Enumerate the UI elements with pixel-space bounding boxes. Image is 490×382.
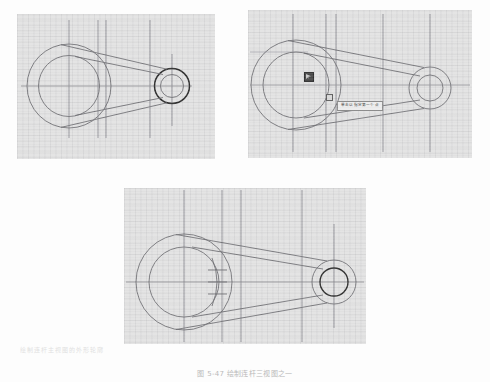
command-tooltip: 单击以指定第一个点 [337, 101, 383, 111]
cad-drawing-step-3[interactable] [124, 188, 366, 344]
osnap-node-marker [326, 94, 333, 101]
cad-panel-step-1[interactable] [17, 14, 215, 159]
pick-point-cursor-icon [304, 72, 314, 82]
cad-panel-step-2[interactable]: 单击以指定第一个点 [248, 10, 472, 158]
cad-drawing-step-1[interactable] [17, 14, 215, 159]
bleed-through-text-left: 绘制连杆主视图的外形轮廓 [20, 345, 104, 354]
scanned-page: 单击以指定第一个点 [0, 0, 490, 382]
cad-panel-step-3[interactable] [124, 188, 366, 344]
cad-drawing-step-2[interactable] [248, 10, 472, 158]
figure-caption: 图 5-47 绘制连杆三视图之一 [0, 368, 490, 378]
